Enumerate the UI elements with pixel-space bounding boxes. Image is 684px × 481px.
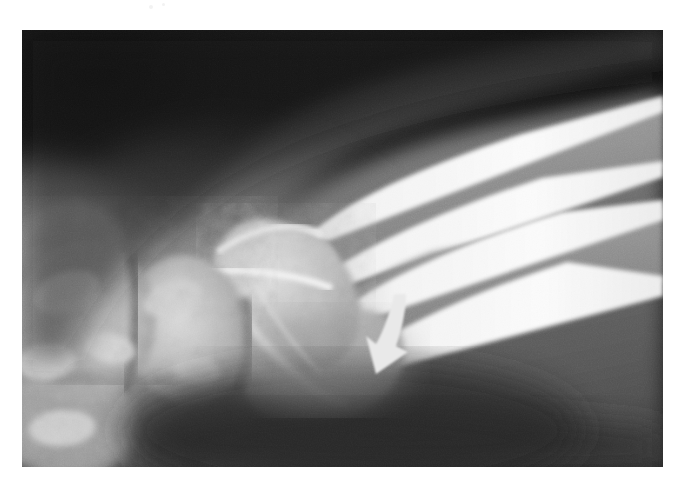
- figure-page: [0, 0, 684, 481]
- film-grain-light: [22, 30, 663, 467]
- radiograph-content: [22, 30, 663, 467]
- wrist-radiograph: [22, 30, 663, 467]
- radiograph-canvas: [22, 30, 663, 467]
- scan-speck-icon: [162, 3, 165, 6]
- scan-speck-icon: [149, 5, 153, 9]
